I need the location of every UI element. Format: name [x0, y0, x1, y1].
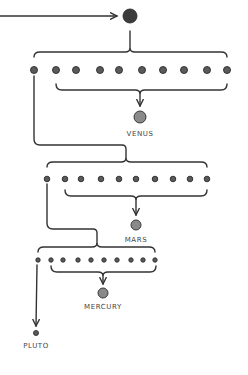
venus-planet-icon	[134, 111, 146, 123]
split-bracket-1	[34, 48, 227, 57]
fragment-dot	[53, 67, 60, 74]
fragment-dot	[36, 258, 40, 262]
fragment-dot	[73, 67, 80, 74]
fragment-dot	[129, 258, 133, 262]
fragment-dot	[61, 258, 65, 262]
fragment-dot	[78, 176, 84, 182]
fragment-dot	[153, 258, 157, 262]
fragment-dot	[133, 176, 139, 182]
fragment-dot	[116, 176, 122, 182]
fragment-dot	[187, 176, 193, 182]
fragment-dot	[139, 67, 146, 74]
split-bracket-3	[38, 243, 155, 252]
fragment-dot	[204, 176, 210, 182]
fragment-dot	[141, 258, 145, 262]
carry-line-2	[34, 76, 126, 158]
mars-label: MARS	[125, 236, 148, 244]
fragment-dot	[115, 258, 119, 262]
planets	[34, 9, 147, 336]
pluto-planet-icon	[34, 331, 39, 336]
fragment-dot	[102, 258, 106, 262]
fragment-dot	[204, 67, 211, 74]
fragment-dot	[76, 258, 80, 262]
mercury-planet-icon	[98, 288, 108, 298]
fragment-dot	[170, 176, 176, 182]
source-mass-icon	[123, 9, 137, 23]
split-bracket-2	[47, 158, 207, 167]
merge-bracket-1	[56, 84, 227, 94]
connector-lines	[0, 16, 227, 326]
fragment-dot	[98, 176, 104, 182]
fragment-dot	[224, 67, 231, 74]
fragment-dot	[116, 67, 123, 74]
fragment-dot	[62, 176, 68, 182]
fragment-dot	[152, 176, 158, 182]
merge-bracket-3	[51, 266, 156, 276]
venus-label: VENUS	[126, 130, 153, 138]
fragment-dot	[44, 176, 50, 182]
fragment-dot	[31, 67, 38, 74]
fragment-dot	[89, 258, 93, 262]
fragment-dot	[160, 67, 167, 74]
fragment-dot	[97, 67, 104, 74]
fragment-dot	[181, 67, 188, 74]
mercury-label: MERCURY	[84, 303, 122, 311]
pluto-label: PLUTO	[23, 342, 49, 350]
planet-formation-diagram	[0, 0, 248, 375]
pluto-arrow	[36, 265, 37, 326]
merge-bracket-2	[65, 190, 207, 200]
mars-planet-icon	[131, 220, 141, 230]
dot-rows	[31, 67, 231, 263]
fragment-dot	[49, 258, 53, 262]
carry-line-3	[47, 184, 97, 243]
